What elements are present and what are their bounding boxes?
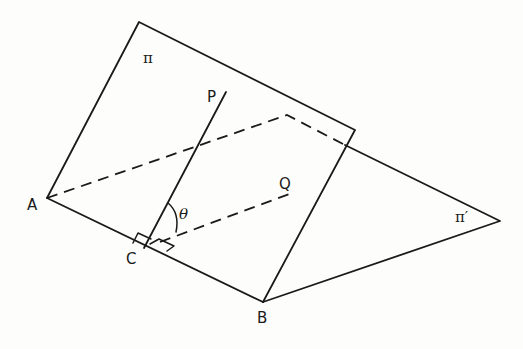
line-ab [47,198,263,302]
label-plane-pi-prime: π′ [455,208,469,226]
plane-pi-edge [47,22,355,302]
label-plane-pi: π [143,49,153,67]
two-planes-diagram: π π′ A B C P Q θ [0,0,523,349]
angle-theta-arc [168,203,177,232]
label-point-a: A [27,196,38,214]
label-point-b: B [257,309,267,327]
plane-pi-prime-hidden-edge [47,115,345,198]
label-point-c: C [126,250,136,268]
label-angle-theta: θ [179,205,188,223]
label-point-q: Q [279,175,291,193]
plane-pi-prime [47,115,500,302]
plane-pi [47,22,355,302]
label-point-p: P [207,88,216,106]
line-pc [144,92,226,248]
